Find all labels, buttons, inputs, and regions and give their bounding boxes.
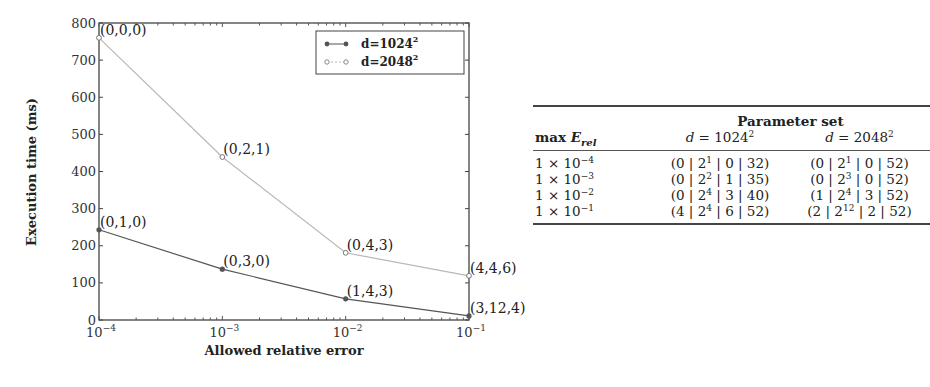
legend-label-2048: d=2048 bbox=[361, 55, 413, 69]
d1024-cell: (0 | 21 | 0 | 32) bbox=[651, 155, 789, 171]
data-point-label: (0,0,0) bbox=[100, 22, 147, 38]
data-point-label: (3,12,4) bbox=[470, 300, 525, 316]
d1024-eq: = 1024 bbox=[694, 129, 748, 145]
d1024-cell: (4 | 24 | 6 | 52) bbox=[651, 203, 789, 219]
d2048-cell: (0 | 21 | 0 | 52) bbox=[789, 155, 930, 171]
parameter-set-header: Parameter set bbox=[651, 113, 930, 129]
table-column-header-row: max Erel d = 10242 d = 20482 bbox=[533, 129, 930, 150]
y-axis-title: Execution time (ms) bbox=[24, 98, 39, 246]
chart-legend: d=10242 d=20482 bbox=[316, 31, 464, 74]
series-line-0 bbox=[99, 230, 469, 316]
table-row: 1 × 10−1 (4 | 24 | 6 | 52) (2 | 212 | 2 … bbox=[533, 203, 930, 219]
svg-text:d=20482: d=20482 bbox=[361, 52, 418, 69]
error-cell: 1 × 10−2 bbox=[533, 187, 651, 203]
y-tick-label: 600 bbox=[71, 90, 96, 105]
parameter-set-table: Parameter set max Erel d = 10242 d = 204… bbox=[533, 105, 930, 225]
table-group-header-row: Parameter set bbox=[533, 107, 930, 129]
x-tick-label: 10−1 bbox=[456, 323, 486, 340]
d2048-sup: 2 bbox=[888, 129, 894, 139]
table-body: 1 × 10−4 (0 | 21 | 0 | 32) (0 | 21 | 0 |… bbox=[533, 151, 930, 223]
max-error-header: max Erel bbox=[533, 129, 651, 149]
x-tick-label: 10−3 bbox=[209, 323, 239, 340]
x-axis-title: Allowed relative error bbox=[204, 343, 364, 358]
y-tick-label: 700 bbox=[71, 53, 96, 68]
y-tick-label: 800 bbox=[71, 16, 96, 31]
error-cell: 1 × 10−3 bbox=[533, 171, 651, 187]
legend-sup-2048: 2 bbox=[413, 52, 419, 62]
legend-label-1024: d=1024 bbox=[361, 37, 413, 51]
d-var: d bbox=[825, 129, 834, 145]
y-tick-label: 500 bbox=[71, 127, 96, 142]
svg-text:d=10242: d=10242 bbox=[361, 34, 418, 51]
d1024-cell: (0 | 22 | 1 | 35) bbox=[651, 171, 789, 187]
d2048-cell: (2 | 212 | 2 | 52) bbox=[789, 203, 930, 219]
d2048-cell: (1 | 24 | 3 | 52) bbox=[789, 187, 930, 203]
d1024-sup: 2 bbox=[749, 129, 755, 139]
y-tick-label: 100 bbox=[71, 275, 96, 290]
open-circle-marker-icon bbox=[325, 60, 329, 64]
plot-series bbox=[96, 35, 471, 318]
execution-time-chart: 010020030040050060070080010−410−310−210−… bbox=[0, 0, 530, 387]
e-var: E bbox=[571, 129, 581, 145]
d1024-cell: (0 | 24 | 3 | 40) bbox=[651, 187, 789, 203]
d2048-eq: = 2048 bbox=[834, 129, 888, 145]
data-point-label: (0,3,0) bbox=[223, 253, 270, 269]
error-cell: 1 × 10−1 bbox=[533, 203, 651, 219]
error-cell: 1 × 10−4 bbox=[533, 155, 651, 171]
filled-circle-marker-icon bbox=[344, 42, 349, 47]
data-point-label: (0,2,1) bbox=[223, 141, 270, 157]
data-point-label: (0,1,0) bbox=[100, 214, 147, 230]
d2048-header: d = 20482 bbox=[789, 129, 930, 145]
x-tick-label: 10−2 bbox=[333, 323, 363, 340]
table-row: 1 × 10−3 (0 | 22 | 1 | 35) (0 | 23 | 0 |… bbox=[533, 171, 930, 187]
table-row: 1 × 10−4 (0 | 21 | 0 | 32) (0 | 21 | 0 |… bbox=[533, 155, 930, 171]
table-row: 1 × 10−2 (0 | 24 | 3 | 40) (1 | 24 | 3 |… bbox=[533, 187, 930, 203]
data-point-label: (1,4,3) bbox=[347, 283, 394, 299]
filled-circle-marker-icon bbox=[325, 42, 330, 47]
d2048-cell: (0 | 23 | 0 | 52) bbox=[789, 171, 930, 187]
rel-subscript: rel bbox=[581, 137, 596, 148]
y-tick-label: 300 bbox=[71, 201, 96, 216]
d1024-header: d = 10242 bbox=[651, 129, 789, 145]
data-point-label: (0,4,3) bbox=[347, 237, 394, 253]
y-tick-label: 200 bbox=[71, 238, 96, 253]
data-point-label: (4,4,6) bbox=[470, 260, 517, 276]
max-label: max bbox=[535, 129, 571, 145]
legend-sup-1024: 2 bbox=[413, 34, 419, 44]
open-circle-marker-icon bbox=[344, 60, 348, 64]
y-tick-label: 400 bbox=[71, 164, 96, 179]
table-bottom-rule bbox=[533, 223, 930, 225]
x-tick-label: 10−4 bbox=[86, 323, 116, 340]
